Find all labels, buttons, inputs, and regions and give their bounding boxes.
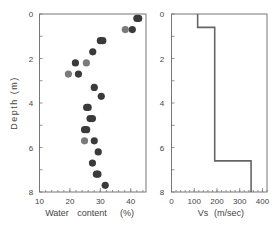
y-tick-label: 2 [160,55,165,64]
x-tick-label: 0 [169,197,174,206]
data-point-dark [91,84,98,91]
y-axis-title: Depth (m) [9,76,19,130]
x-tick-label: 200 [210,197,224,206]
data-point-dark [89,159,96,166]
x-tick-label: 400 [256,197,270,206]
data-point-gray [122,26,129,33]
x-tick-label: 20 [65,197,74,206]
data-point-dark [89,115,96,122]
vs-plot: 024680100200300400Vs(m/sec) [160,10,270,218]
plot-frame [172,14,268,192]
x-tick-label: 30 [96,197,105,206]
data-point-dark [129,26,136,33]
data-point-dark [99,37,106,44]
data-point-gray [83,59,90,66]
x-axis-title-word: Water [45,208,69,218]
x-tick-label: 40 [126,197,135,206]
y-tick-label: 2 [29,55,34,64]
x-axis-title-word: (m/sec) [214,208,244,218]
data-point-dark [89,48,96,55]
y-tick-label: 0 [29,10,34,19]
y-tick-label: 6 [160,144,165,153]
figure: 0246810203040Watercontent(%)Depth (m) 02… [0,0,278,237]
y-tick-label: 6 [29,144,34,153]
x-tick-label: 100 [188,197,202,206]
x-axis-title-word: Vs [198,208,209,218]
data-point-dark [85,104,92,111]
data-point-dark [95,148,102,155]
data-point-dark [102,182,109,189]
x-axis-title-word: (%) [120,208,134,218]
data-point-dark [135,15,142,22]
data-point-dark [98,93,105,100]
y-tick-label: 4 [29,99,34,108]
y-tick-label: 8 [160,188,165,197]
y-tick-label: 4 [160,99,165,108]
data-point-dark [83,126,90,133]
data-point-dark [72,59,79,66]
data-point-dark [75,70,82,77]
y-tick-label: 0 [160,10,165,19]
water-content-plot: 0246810203040Watercontent(%)Depth (m) [9,10,146,218]
y-tick-label: 8 [29,188,34,197]
x-tick-label: 10 [35,197,44,206]
vs-profile-line [198,14,251,192]
data-point-dark [91,137,98,144]
data-point-gray [81,137,88,144]
data-point-dark [94,171,101,178]
data-point-gray [65,70,72,77]
x-axis-title-word: content [77,208,107,218]
x-tick-label: 300 [233,197,247,206]
